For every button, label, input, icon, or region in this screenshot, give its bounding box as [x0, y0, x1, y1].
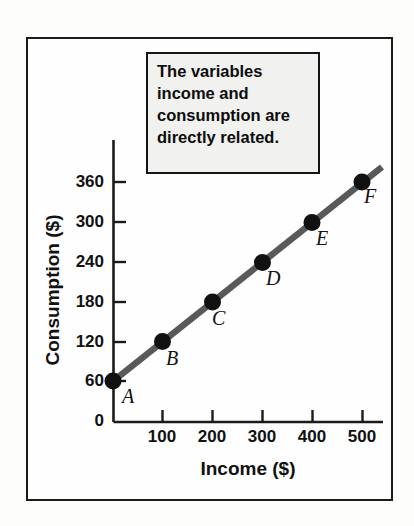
point-label-b: B — [166, 348, 178, 368]
point-label-f: F — [364, 186, 376, 206]
x-tick-label-400: 400 — [287, 427, 337, 447]
x-tick-label-200: 200 — [187, 427, 237, 447]
annotation-callout-box: The variables income and consumption are… — [146, 52, 320, 174]
x-tick-label-300: 300 — [237, 427, 287, 447]
x-axis-ticks — [163, 410, 363, 422]
y-axis-ticks — [114, 182, 127, 381]
x-tick-label-100: 100 — [137, 427, 187, 447]
x-tick-label-500: 500 — [337, 427, 387, 447]
point-label-d: D — [266, 268, 280, 288]
y-tick-label-0: 0 — [52, 411, 104, 431]
point-label-e: E — [316, 228, 328, 248]
data-point-a — [105, 373, 122, 390]
y-axis-title: Consumption ($) — [42, 185, 64, 395]
point-label-c: C — [212, 308, 225, 328]
point-label-a: A — [122, 386, 134, 406]
x-axis-title: Income ($) — [113, 458, 383, 480]
figure-container: 360 300 240 180 120 60 0 100 200 300 400… — [0, 0, 414, 526]
annotation-callout-text: The variables income and consumption are… — [157, 61, 310, 149]
trend-line — [112, 167, 382, 382]
